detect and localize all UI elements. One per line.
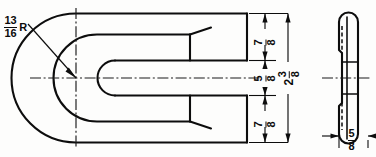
upper-arm-dimension-label: 7 8 xyxy=(253,35,278,51)
slot-gap-dimension-label: 5 8 xyxy=(253,71,278,87)
overall-height-dimension-label: 2 3 8 xyxy=(277,66,301,90)
upper-arm-chamfer xyxy=(190,28,211,35)
radius-dimension-label: 13 16 R xyxy=(4,15,27,39)
thickness-dimension-label: 5 8 xyxy=(348,128,355,153)
drawing-canvas xyxy=(0,0,376,157)
radius-leader xyxy=(28,24,76,78)
lower-arm-dimension-label: 7 8 xyxy=(253,117,278,133)
lower-arm-chamfer xyxy=(190,122,211,129)
drawing-sheet: 13 16 R 7 8 5 8 7 8 2 3 8 5 xyxy=(0,0,376,157)
